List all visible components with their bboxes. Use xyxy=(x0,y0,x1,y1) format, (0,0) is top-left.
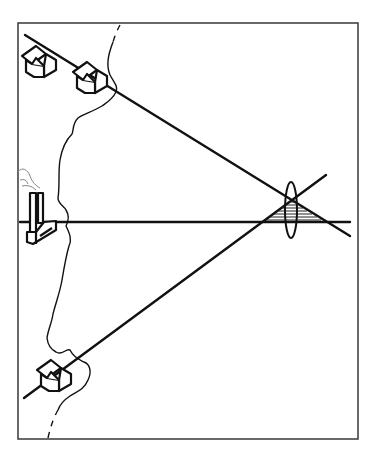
line-from-top-houses xyxy=(25,35,350,236)
house-bottom xyxy=(37,360,71,391)
vertical-lens xyxy=(285,182,297,238)
line-from-bottom-house xyxy=(24,175,326,398)
hatched-triangle xyxy=(266,202,321,220)
diagram-canvas xyxy=(0,0,377,459)
smoke-icon xyxy=(18,169,40,190)
factory-with-chimney xyxy=(18,169,56,244)
